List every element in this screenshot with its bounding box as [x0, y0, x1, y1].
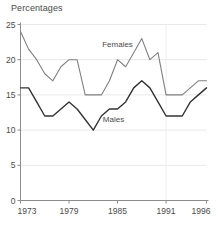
x-tick-label-1973: 1973	[18, 206, 37, 216]
x-axis-tick-labels: 19731979198519911996	[18, 201, 211, 216]
y-tick-label-15: 15	[6, 90, 16, 100]
y-tick-label-5: 5	[11, 160, 16, 170]
y-axis-tick-labels: 0510152025	[6, 20, 20, 206]
x-tick-label-1996: 1996	[192, 206, 211, 216]
line-chart-plot: 0510152025 19731979198519911996 FemalesM…	[0, 0, 221, 226]
series-label-females: Females	[102, 40, 133, 49]
axes	[21, 23, 209, 201]
y-tick-label-25: 25	[6, 20, 16, 30]
y-tick-label-20: 20	[6, 55, 16, 65]
x-tick-label-1991: 1991	[157, 206, 176, 216]
x-tick-label-1985: 1985	[108, 206, 127, 216]
chart-container: Percentages 0510152025 19731979198519911…	[0, 0, 221, 226]
y-tick-label-10: 10	[6, 125, 16, 135]
x-tick-label-1979: 1979	[60, 206, 79, 216]
gridlines	[21, 25, 207, 201]
y-tick-label-0: 0	[11, 196, 16, 206]
series-label-males: Males	[103, 115, 124, 124]
